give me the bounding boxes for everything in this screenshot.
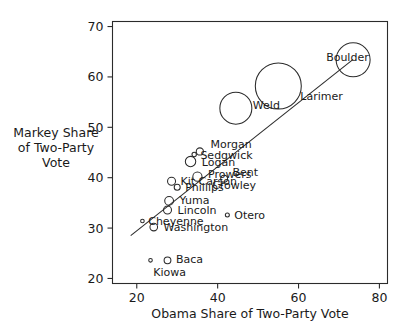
x-tick-label: 80 bbox=[371, 290, 387, 305]
y-tick-label: 20 bbox=[88, 271, 104, 286]
y-axis-title-line: Markey Share bbox=[13, 125, 99, 140]
data-point-label: Boulder bbox=[326, 51, 369, 64]
chart-canvas: BoulderLarimerWeldMorganSedgwickLoganPro… bbox=[0, 0, 406, 326]
y-axis-title-line: of Two-Party bbox=[18, 140, 95, 155]
y-tick-label: 60 bbox=[88, 69, 104, 84]
x-axis-title: Obama Share of Two-Party Vote bbox=[151, 306, 349, 321]
y-tick-label: 40 bbox=[88, 170, 104, 185]
data-point-label: Logan bbox=[202, 156, 235, 169]
y-tick-label: 30 bbox=[88, 221, 104, 236]
data-point-label: Otero bbox=[234, 209, 265, 222]
x-tick-label: 20 bbox=[129, 290, 145, 305]
data-point-label: Weld bbox=[253, 99, 280, 112]
y-tick-label: 70 bbox=[88, 19, 104, 34]
data-point-label: Larimer bbox=[300, 90, 343, 103]
data-point-label: Baca bbox=[176, 253, 203, 266]
data-point-label: Washington bbox=[164, 221, 229, 234]
x-tick-label: 40 bbox=[210, 290, 226, 305]
x-tick-label: 60 bbox=[291, 290, 307, 305]
data-point-label: Kiowa bbox=[153, 266, 186, 279]
y-axis-title-line: Vote bbox=[42, 155, 70, 170]
data-point-label: Crowley bbox=[212, 179, 257, 192]
scatter-chart-figure: BoulderLarimerWeldMorganSedgwickLoganPro… bbox=[0, 0, 406, 326]
